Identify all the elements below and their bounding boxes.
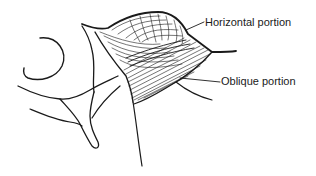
oblique-portion-label: Oblique portion bbox=[221, 76, 296, 87]
horizontal-portion-label: Horizontal portion bbox=[205, 17, 291, 28]
